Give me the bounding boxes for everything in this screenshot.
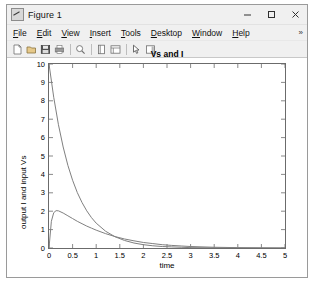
x-tick-label: 4 — [227, 251, 249, 260]
close-icon[interactable] — [283, 5, 307, 24]
menu-item-insert[interactable]: Insert — [90, 28, 111, 38]
figure-window: Figure 1 File Edit View Insert Tools Des… — [6, 4, 308, 278]
window-title: Figure 1 — [28, 10, 62, 20]
axis-ticks — [49, 64, 285, 248]
open-file-icon[interactable] — [25, 43, 38, 56]
menu-item-edit[interactable]: Edit — [37, 28, 52, 38]
x-tick-label: 1.5 — [109, 251, 131, 260]
menu-item-tools[interactable]: Tools — [121, 28, 141, 38]
x-tick-label: 0 — [38, 251, 60, 260]
x-axis-label: time — [48, 261, 286, 270]
y-tick-label: 6 — [29, 133, 45, 142]
menu-item-window[interactable]: Window — [192, 28, 222, 38]
y-axis-label: output I and input Vs — [19, 156, 28, 229]
title-bar: Figure 1 — [7, 5, 307, 25]
menu-item-view[interactable]: View — [61, 28, 79, 38]
menu-label-help: elp — [238, 28, 249, 38]
y-tick-label: 8 — [29, 96, 45, 105]
menu-item-file[interactable]: File — [13, 28, 27, 38]
plot-svg — [49, 64, 285, 248]
x-tick-label: 2 — [132, 251, 154, 260]
x-tick-label: 2.5 — [156, 251, 178, 260]
curve-I — [49, 211, 285, 248]
y-tick-label: 2 — [29, 207, 45, 216]
data-curves — [49, 64, 285, 248]
menu-bar: File Edit View Insert Tools Desktop Wind… — [7, 25, 307, 41]
y-tick-label: 5 — [29, 152, 45, 161]
x-tick-label: 3 — [180, 251, 202, 260]
curve-Vs — [49, 64, 285, 248]
x-tick-label: 4.5 — [250, 251, 272, 260]
matlab-figure-icon — [11, 8, 24, 21]
x-tick-label: 1 — [85, 251, 107, 260]
menu-label-insert: nsert — [92, 28, 111, 38]
menu-label-tools: ools — [125, 28, 141, 38]
plot-axes-box — [48, 63, 286, 249]
menu-item-help[interactable]: Help — [232, 28, 249, 38]
figure-canvas[interactable]: Vs and I 012345678910 00.511.522.533.544… — [7, 58, 307, 277]
y-tick-label: 7 — [29, 115, 45, 124]
minimize-icon[interactable] — [235, 5, 259, 24]
x-tick-label: 5 — [274, 251, 296, 260]
menu-overflow-chevron-icon[interactable]: » — [299, 28, 302, 37]
y-tick-label: 3 — [29, 188, 45, 197]
menu-label-view: iew — [67, 28, 80, 38]
window-controls — [235, 5, 307, 24]
y-tick-label: 10 — [29, 60, 45, 69]
chart-title: Vs and I — [48, 49, 286, 59]
x-tick-label: 3.5 — [203, 251, 225, 260]
x-tick-label: 0.5 — [62, 251, 84, 260]
menu-label-desktop: esktop — [157, 28, 182, 38]
y-tick-label: 1 — [29, 225, 45, 234]
menu-label-file: ile — [18, 28, 27, 38]
maximize-icon[interactable] — [259, 5, 283, 24]
y-tick-label: 9 — [29, 78, 45, 87]
menu-label-edit: dit — [42, 28, 51, 38]
menu-mnemonic-window: W — [192, 28, 200, 38]
menu-label-window: indow — [200, 28, 222, 38]
menu-item-desktop[interactable]: Desktop — [151, 28, 182, 38]
y-tick-label: 4 — [29, 170, 45, 179]
new-figure-icon[interactable] — [11, 43, 24, 56]
